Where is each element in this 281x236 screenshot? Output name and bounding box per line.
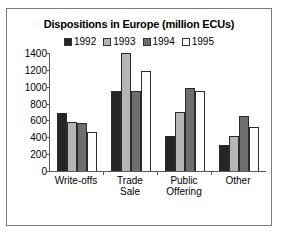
y-tick-mark — [47, 70, 50, 71]
bar-1994[interactable] — [77, 123, 87, 171]
bar-groups — [50, 53, 266, 171]
x-tick-label-line1: Public — [157, 175, 211, 186]
y-tick-mark — [47, 120, 50, 121]
x-tick-label-line2: Sale — [103, 186, 157, 197]
bar-1993[interactable] — [67, 122, 77, 171]
x-tick-label-line1: Trade — [103, 175, 157, 186]
y-tick-mark — [47, 53, 50, 54]
chart-container: Dispositions in Europe (million ECUs) 19… — [6, 8, 272, 226]
y-tick-label: 600 — [30, 115, 47, 126]
bar-group-write-offs — [50, 53, 104, 171]
bar-1993[interactable] — [175, 112, 185, 171]
bar-group-public-offering — [158, 53, 212, 171]
bar-1992[interactable] — [111, 91, 121, 171]
y-tick-label: 1200 — [25, 64, 47, 75]
bar-1995[interactable] — [249, 127, 259, 171]
bar-1994[interactable] — [239, 116, 249, 171]
bar-1992[interactable] — [57, 113, 67, 171]
x-tick-label: TradeSale — [103, 175, 157, 197]
bar-1994[interactable] — [131, 91, 141, 171]
bar-1993[interactable] — [121, 53, 131, 171]
y-axis: 1400120010008006004002000 — [13, 53, 47, 171]
bar-group-trade-sale — [104, 53, 158, 171]
x-tick-label-line2: Offering — [157, 186, 211, 197]
bar-1993[interactable] — [229, 136, 239, 171]
plot-area — [49, 53, 266, 172]
bar-1995[interactable] — [141, 71, 151, 171]
x-axis: Write-offsTradeSalePublicOfferingOther — [49, 175, 265, 197]
bar-group-other — [212, 53, 266, 171]
bar-1995[interactable] — [195, 91, 205, 171]
y-tick-mark — [47, 137, 50, 138]
y-tick-label: 1000 — [25, 81, 47, 92]
y-tick-label: 1400 — [25, 48, 47, 59]
bar-1994[interactable] — [185, 88, 195, 171]
x-tick-label: Other — [211, 175, 265, 197]
bar-1995[interactable] — [87, 132, 97, 171]
bar-1992[interactable] — [165, 136, 175, 171]
plot-wrapper: 1400120010008006004002000 Write-offsTrad… — [7, 9, 271, 225]
x-tick-label: Write-offs — [49, 175, 103, 197]
y-tick-label: 800 — [30, 98, 47, 109]
bar-1992[interactable] — [219, 145, 229, 171]
y-tick-mark — [47, 87, 50, 88]
y-tick-label: 200 — [30, 149, 47, 160]
x-tick-label-line1: Write-offs — [49, 175, 103, 186]
y-tick-label: 400 — [30, 132, 47, 143]
y-tick-mark — [47, 171, 50, 172]
y-tick-mark — [47, 154, 50, 155]
x-tick-label: PublicOffering — [157, 175, 211, 197]
y-tick-mark — [47, 104, 50, 105]
x-tick-label-line1: Other — [211, 175, 265, 186]
